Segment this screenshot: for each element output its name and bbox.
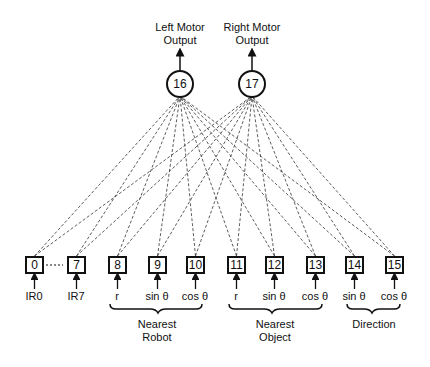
input-node-7: 7 (67, 256, 86, 274)
input-label-object-r: r (234, 290, 238, 303)
input-node-9: 9 (148, 256, 167, 274)
input-node-14: 14 (345, 256, 364, 274)
input-label-direction-sin: sin θ (342, 290, 365, 303)
input-label-object-cos: cos θ (302, 290, 328, 303)
output-neuron-17: 17 (238, 70, 266, 98)
input-node-8: 8 (108, 256, 127, 274)
output-neuron-16: 16 (166, 70, 194, 98)
input-label-ir7: IR7 (67, 290, 84, 303)
input-node-12: 12 (265, 256, 284, 274)
right-motor-label: Right MotorOutput (224, 21, 281, 47)
input-node-11: 11 (227, 256, 246, 274)
group-label-direction: Direction (352, 318, 395, 331)
input-node-13: 13 (306, 256, 325, 274)
input-label-object-sin: sin θ (262, 290, 285, 303)
input-node-15: 15 (385, 256, 404, 274)
connection-lines (0, 0, 430, 367)
left-motor-label: Left MotorOutput (155, 21, 205, 47)
input-label-direction-cos: cos θ (381, 290, 407, 303)
input-label-robot-sin: sin θ (145, 290, 168, 303)
group-label-nearest-robot: NearestRobot (138, 318, 177, 344)
input-label-robot-cos: cos θ (182, 290, 208, 303)
input-label-robot-r: r (115, 290, 119, 303)
input-node-10: 10 (186, 256, 205, 274)
input-label-ir0: IR0 (25, 290, 42, 303)
group-label-nearest-object: NearestObject (256, 318, 295, 344)
input-node-0: 0 (25, 256, 44, 274)
